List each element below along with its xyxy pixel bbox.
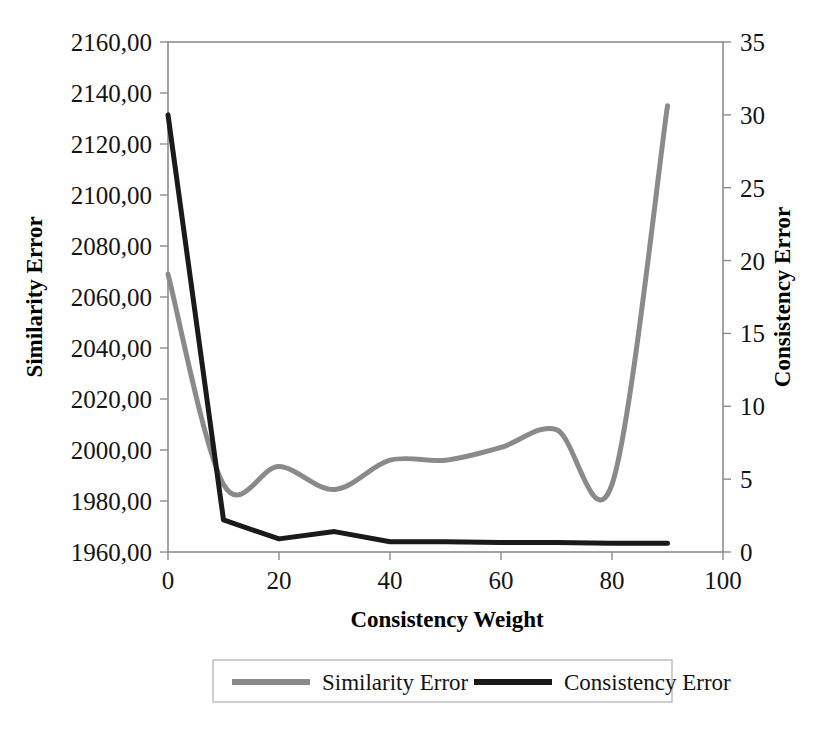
y-axis-left-tick-label: 1960,00: [71, 539, 152, 566]
chart-container: 1960,001980,002000,002020,002040,002060,…: [0, 0, 821, 729]
y-axis-right-tick-label: 15: [740, 320, 765, 347]
y-axis-right-ticks: [723, 42, 731, 552]
data-series-group: [168, 106, 668, 544]
x-axis-tick-label: 80: [600, 567, 625, 594]
y-axis-left-tick-label: 2060,00: [71, 284, 152, 311]
y-axis-left-tick-label: 2120,00: [71, 131, 152, 158]
y-axis-right-tick-label: 30: [740, 102, 765, 129]
y-axis-left-tick-label: 2160,00: [71, 29, 152, 56]
y-axis-left-tick-label: 2140,00: [71, 80, 152, 107]
x-axis-tick-label: 100: [704, 567, 742, 594]
x-axis-title: Consistency Weight: [350, 607, 544, 632]
plot-frame: [168, 42, 723, 552]
y-axis-left-tick-label: 2000,00: [71, 437, 152, 464]
legend-label-consistency-error: Consistency Error: [564, 670, 731, 695]
y-axis-left-tick-label: 1980,00: [71, 488, 152, 515]
y-axis-right-tick-label: 20: [740, 248, 765, 275]
y-axis-right-tick-label: 35: [740, 29, 765, 56]
x-axis-tick-label: 60: [489, 567, 514, 594]
y-axis-left-tick-labels: 1960,001980,002000,002020,002040,002060,…: [71, 29, 152, 566]
y-axis-left-tick-label: 2040,00: [71, 335, 152, 362]
x-axis-tick-labels: 020406080100: [162, 567, 742, 594]
y-axis-right-tick-label: 25: [740, 175, 765, 202]
y-axis-left-title: Similarity Error: [22, 216, 47, 377]
y-axis-right-title: Consistency Error: [770, 207, 795, 387]
x-axis-tick-label: 40: [378, 567, 403, 594]
y-axis-right-tick-label: 10: [740, 393, 765, 420]
y-axis-right-tick-labels: 05101520253035: [740, 29, 765, 566]
y-axis-right-tick-label: 0: [740, 539, 753, 566]
x-axis-tick-label: 0: [162, 567, 175, 594]
y-axis-right-tick-label: 5: [740, 466, 753, 493]
chart-legend: Similarity ErrorConsistency Error: [213, 660, 731, 702]
y-axis-left-tick-label: 2100,00: [71, 182, 152, 209]
series-line-consistency-error: [168, 115, 668, 543]
chart-page: 1960,001980,002000,002020,002040,002060,…: [0, 0, 821, 729]
chart-svg: 1960,001980,002000,002020,002040,002060,…: [0, 0, 821, 729]
series-line-similarity-error: [168, 106, 668, 500]
legend-label-similarity-error: Similarity Error: [322, 670, 469, 695]
y-axis-left-tick-label: 2080,00: [71, 233, 152, 260]
y-axis-left-tick-label: 2020,00: [71, 386, 152, 413]
x-axis-ticks: [168, 552, 723, 560]
x-axis-tick-label: 20: [267, 567, 292, 594]
